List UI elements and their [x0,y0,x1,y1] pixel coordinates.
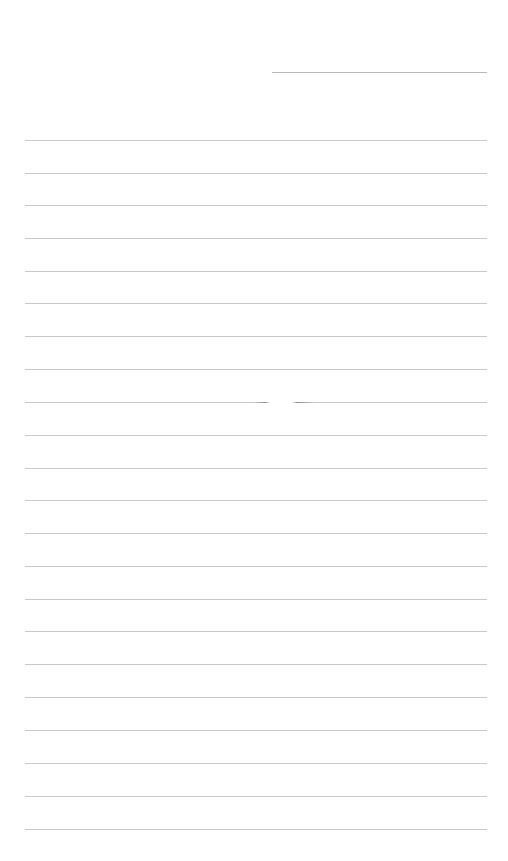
ruled-line [25,533,487,534]
ruled-line [25,402,487,403]
ruled-line [25,599,487,600]
header-line [272,72,487,73]
ruled-line [25,173,487,174]
ruled-line [25,796,487,797]
ruled-line [25,763,487,764]
ruled-line [25,500,487,501]
lined-paper-page [0,0,508,861]
ruled-line [25,631,487,632]
ruled-line [25,205,487,206]
ruled-line [25,566,487,567]
ruled-line [25,238,487,239]
ruled-line [25,730,487,731]
ruled-line [25,664,487,665]
ruled-line [25,271,487,272]
ruled-line [25,435,487,436]
ruled-line [25,369,487,370]
ruled-line [25,140,487,141]
ruled-line [25,303,487,304]
ruled-line [25,468,487,469]
ruled-line [25,829,487,830]
ruled-line [25,336,487,337]
ruled-line [25,697,487,698]
